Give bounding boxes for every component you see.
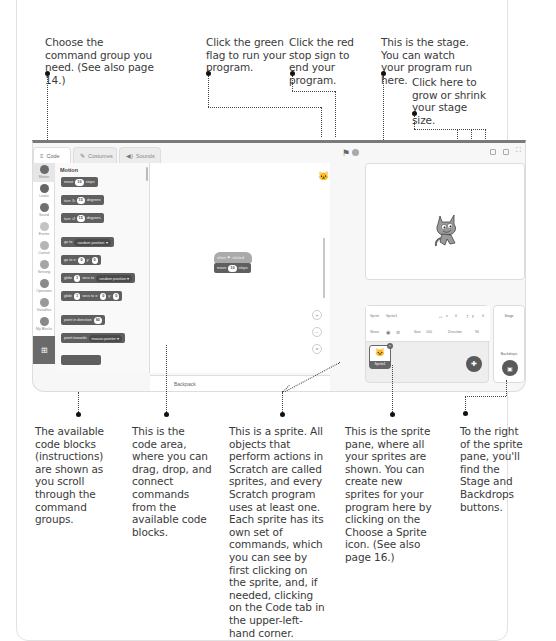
y-field[interactable]: 0: [482, 314, 484, 318]
block-partial[interactable]: [61, 355, 101, 365]
block-turn-left[interactable]: turn ↺15degrees: [61, 213, 104, 223]
stage[interactable]: [365, 163, 525, 280]
script-move-block[interactable]: move10steps: [214, 263, 251, 273]
leader-line: [282, 392, 283, 412]
category-sound[interactable]: Sound: [33, 201, 55, 220]
code-scrollbar-vertical[interactable]: [323, 238, 325, 298]
block-turn-right[interactable]: turn ↻15degrees: [61, 195, 104, 205]
choose-sprite-button[interactable]: ✚: [466, 356, 482, 372]
green-flag-button[interactable]: ⚑: [342, 148, 350, 158]
tab-sounds[interactable]: ◀) Sounds: [119, 147, 161, 163]
palette-title: Motion: [60, 167, 78, 173]
block-glide-to-xy[interactable]: glide1secs to x:0y:0: [61, 291, 122, 301]
script-hat-block[interactable]: when ⚑ clicked: [214, 252, 252, 263]
category-events[interactable]: Events: [33, 220, 55, 239]
leader-line: [208, 76, 209, 107]
stage-selector[interactable]: Stage Backdrops ▣: [493, 305, 525, 383]
block-glide-to[interactable]: glide1secs torandom position ▾: [61, 273, 135, 283]
brush-icon: ✎: [80, 152, 85, 159]
direction-field[interactable]: 90: [475, 330, 479, 334]
small-stage-button[interactable]: [490, 149, 496, 155]
zoom-in-icon: +: [316, 312, 319, 318]
leader-line: [485, 129, 486, 139]
leader-line: [392, 365, 393, 414]
sprite-pane: Sprite Sprite1 ↔ x 0 ↕ y 0 Show ◉ ⊘ Size…: [365, 305, 489, 383]
category-motion[interactable]: Motion: [33, 163, 55, 182]
category-variables[interactable]: Variables: [33, 296, 55, 315]
zoom-reset-button[interactable]: =: [312, 344, 322, 354]
callout-code-area: This is the code area, where you can dra…: [132, 425, 212, 538]
block-go-to-xy[interactable]: go to x:0y:0: [61, 255, 101, 265]
block-point-direction[interactable]: point in direction90: [61, 315, 105, 325]
leader-line: [465, 396, 506, 397]
block-go-to[interactable]: go torandom position ▾: [61, 237, 114, 247]
zoom-in-button[interactable]: +: [312, 310, 322, 320]
leader-line: [208, 107, 321, 108]
extension-icon: ⊞: [41, 346, 48, 355]
delete-sprite-button[interactable]: ×: [387, 343, 393, 349]
normal-stage-button[interactable]: [503, 149, 509, 155]
image-icon: ▣: [507, 365, 513, 372]
leader-dot: [164, 412, 169, 417]
choose-backdrop-button[interactable]: ▣: [502, 360, 518, 376]
callout-command-group: Choose the command group you need. (See …: [45, 36, 155, 86]
leader-line: [292, 76, 293, 91]
leader-line: [457, 129, 458, 139]
stop-button[interactable]: [352, 149, 359, 156]
sprite-info-panel: Sprite Sprite1 ↔ x 0 ↕ y 0 Show ◉ ⊘ Size…: [366, 306, 490, 342]
callout-stop-sign: Click the red stop sign to end your prog…: [289, 36, 371, 86]
category-sensing[interactable]: Sensing: [33, 258, 55, 277]
reset-icon: =: [316, 346, 319, 352]
block-palette: Motion move10steps turn ↻15degrees turn …: [55, 163, 150, 373]
code-icon: ≡: [40, 153, 44, 159]
category-control[interactable]: Control: [33, 239, 55, 258]
hide-button[interactable]: ⊘: [396, 329, 400, 335]
sprite-name-field[interactable]: Sprite1: [386, 314, 397, 318]
cat-plus-icon: ✚: [471, 360, 477, 368]
fullscreen-button[interactable]: ⛶: [516, 146, 521, 154]
sprite-watermark-icon: 🐱: [318, 171, 329, 181]
leader-dot: [280, 412, 285, 417]
callout-stage-size: Click here to grow or shrink your stage …: [412, 76, 492, 126]
palette-scrollbar[interactable]: [146, 167, 148, 181]
callout-green-flag: Click the green flag to run your program…: [206, 36, 288, 74]
cat-thumbnail-icon: 🐱: [375, 348, 385, 357]
backpack[interactable]: Backpack: [150, 375, 330, 391]
size-field[interactable]: 100: [426, 330, 432, 334]
tab-code[interactable]: ≡ Code: [33, 147, 71, 163]
leader-line: [335, 91, 336, 137]
backdrops-label: Backdrops: [494, 352, 524, 356]
x-field[interactable]: 0: [455, 314, 457, 318]
category-operators[interactable]: Operators: [33, 277, 55, 296]
code-area[interactable]: when ⚑ clicked move10steps 🐱: [150, 163, 330, 373]
stage-header: ⚑ ⛶: [330, 143, 526, 163]
category-my-blocks[interactable]: My Blocks: [33, 315, 55, 334]
cat-sprite-icon[interactable]: [432, 212, 462, 250]
stage-label: Stage: [494, 314, 524, 318]
sprite-thumbnail[interactable]: 🐱 × Sprite1: [369, 345, 391, 369]
show-visible-button[interactable]: ◉: [386, 329, 390, 335]
leader-line: [414, 116, 415, 129]
leader-line: [292, 91, 335, 92]
leader-line: [471, 129, 472, 139]
block-point-towards[interactable]: point towardsmouse-pointer ▾: [61, 333, 125, 343]
leader-line: [78, 392, 79, 414]
speaker-icon: ◀): [126, 152, 133, 159]
callout-sprite: This is a sprite. All objects that perfo…: [229, 425, 325, 639]
category-looks[interactable]: Looks: [33, 182, 55, 201]
leader-line: [414, 129, 486, 130]
editor-tabs: ≡ Code ✎ Costumes ◀) Sounds: [33, 143, 333, 163]
callout-code-blocks: The available code blocks (instructions)…: [35, 425, 115, 526]
callout-sprite-pane: This is the sprite pane, where all your …: [345, 425, 437, 564]
category-menu: Motion Looks Sound Events Control Sensin…: [33, 163, 55, 338]
zoom-out-button[interactable]: −: [312, 327, 322, 337]
leader-line: [166, 345, 167, 414]
leader-dot: [76, 412, 81, 417]
leader-line: [465, 396, 466, 412]
leader-dot: [463, 411, 468, 416]
block-move[interactable]: move10steps: [61, 177, 98, 187]
leader-dot: [390, 412, 395, 417]
add-extension-button[interactable]: ⊞: [33, 336, 55, 364]
zoom-out-icon: −: [316, 329, 319, 335]
tab-costumes[interactable]: ✎ Costumes: [73, 147, 117, 163]
